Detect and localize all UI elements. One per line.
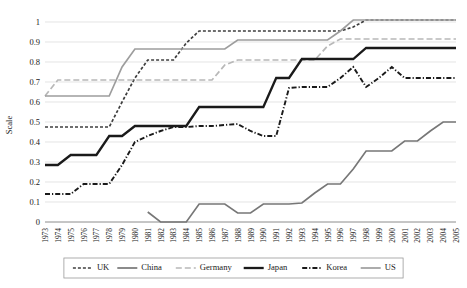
chart-canvas: 00.10.20.30.40.50.60.70.80.91 1973197419… [0, 0, 467, 288]
y-axis-label: Scale [4, 116, 14, 135]
x-tick-label: 1975 [67, 228, 76, 243]
x-tick-label: 1978 [105, 228, 114, 243]
x-tick-label: 1983 [169, 228, 178, 243]
y-tick-label: 0.8 [29, 57, 40, 67]
x-tick-label: 2000 [388, 228, 397, 243]
series-line-korea [45, 67, 456, 194]
x-tick-label: 2005 [452, 228, 461, 243]
legend-item-germany[interactable]: Germany [176, 262, 233, 272]
line-chart: 00.10.20.30.40.50.60.70.80.91 1973197419… [0, 0, 467, 288]
x-tick-label: 1979 [118, 228, 127, 243]
x-tick-label: 1994 [311, 228, 320, 243]
series-line-uk [45, 20, 456, 127]
y-tick-label: 0.1 [29, 197, 40, 207]
x-tick-label: 1980 [131, 228, 140, 243]
legend-label-korea: Korea [326, 262, 347, 272]
legend-item-uk[interactable]: UK [73, 262, 110, 272]
gridlines [45, 22, 456, 222]
x-tick-label: 1977 [92, 228, 101, 243]
x-tick-label: 1992 [285, 228, 294, 243]
x-tick-label: 1976 [80, 228, 89, 243]
x-tick-label: 1996 [336, 228, 345, 243]
x-tick-label: 1987 [221, 228, 230, 243]
x-tick-label: 1995 [324, 228, 333, 243]
x-tick-label: 1989 [247, 228, 256, 243]
x-tick-label: 1999 [375, 228, 384, 243]
x-tick-label: 2001 [401, 228, 410, 243]
x-tick-label: 1988 [234, 228, 243, 243]
y-tick-label: 0.9 [29, 37, 40, 47]
legend-item-china[interactable]: China [117, 262, 162, 272]
y-tick-label: 0.6 [29, 97, 40, 107]
series-line-china [148, 122, 456, 222]
legend-label-china: China [141, 262, 162, 272]
legend-item-us[interactable]: US [361, 262, 396, 272]
x-tick-label: 1991 [272, 228, 281, 243]
x-tick-label: 1998 [362, 228, 371, 243]
x-tick-label: 2003 [426, 228, 435, 243]
x-tick-label: 1974 [54, 228, 63, 243]
legend-label-germany: Germany [200, 262, 233, 272]
x-tick-label: 1997 [349, 228, 358, 243]
legend-border [64, 258, 403, 278]
x-tick-label: 2002 [413, 228, 422, 243]
data-series [45, 20, 456, 222]
y-axis-ticks: 00.10.20.30.40.50.60.70.80.91 [29, 17, 40, 227]
x-tick-label: 2004 [439, 228, 448, 243]
y-tick-label: 0.2 [29, 177, 40, 187]
x-tick-label: 1981 [144, 228, 153, 243]
x-axis-ticks: 1973197419751976197719781979198019811982… [41, 228, 461, 243]
legend-label-uk: UK [97, 262, 110, 272]
x-tick-label: 1990 [259, 228, 268, 243]
y-tick-label: 0.5 [29, 117, 40, 127]
legend-item-japan[interactable]: Japan [244, 262, 288, 272]
x-tick-label: 1993 [298, 228, 307, 243]
x-tick-label: 1984 [182, 228, 191, 243]
y-tick-label: 0.7 [29, 77, 40, 87]
y-tick-label: 0 [36, 217, 40, 227]
x-tick-label: 1985 [195, 228, 204, 243]
legend-label-us: US [385, 262, 396, 272]
legend-item-korea[interactable]: Korea [302, 262, 347, 272]
x-tick-label: 1986 [208, 228, 217, 243]
legend-label-japan: Japan [268, 262, 288, 272]
y-tick-label: 0.4 [29, 137, 40, 147]
series-line-japan [45, 48, 456, 165]
x-tick-label: 1973 [41, 228, 50, 243]
y-tick-label: 1 [36, 17, 40, 27]
y-tick-label: 0.3 [29, 157, 40, 167]
chart-legend: UKChinaGermanyJapanKoreaUS [64, 258, 403, 278]
x-tick-label: 1982 [157, 228, 166, 243]
